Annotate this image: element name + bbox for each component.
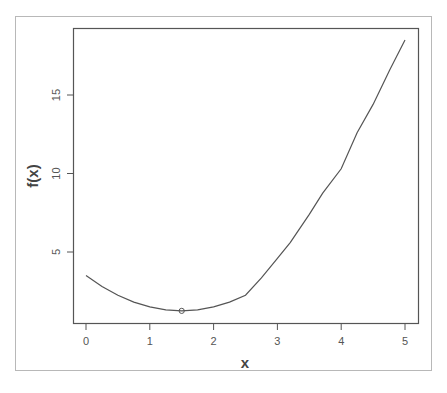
plot-box bbox=[74, 29, 419, 324]
function-curve bbox=[86, 40, 405, 311]
x-tick-label: 3 bbox=[274, 335, 280, 347]
x-tick-label: 5 bbox=[402, 335, 408, 347]
chart: 012345 51015 x f(x) bbox=[0, 0, 447, 393]
x-axis: 012345 bbox=[83, 324, 408, 348]
x-tick-label: 4 bbox=[338, 335, 344, 347]
x-axis-title: x bbox=[241, 354, 250, 371]
y-axis: 51015 bbox=[50, 89, 74, 255]
y-tick-label: 10 bbox=[50, 167, 62, 179]
y-tick-label: 15 bbox=[50, 89, 62, 101]
x-tick-label: 2 bbox=[211, 335, 217, 347]
x-tick-label: 0 bbox=[83, 335, 89, 347]
y-tick-label: 5 bbox=[50, 249, 62, 255]
x-tick-label: 1 bbox=[147, 335, 153, 347]
y-axis-title: f(x) bbox=[24, 164, 41, 187]
outer-frame bbox=[16, 17, 432, 371]
